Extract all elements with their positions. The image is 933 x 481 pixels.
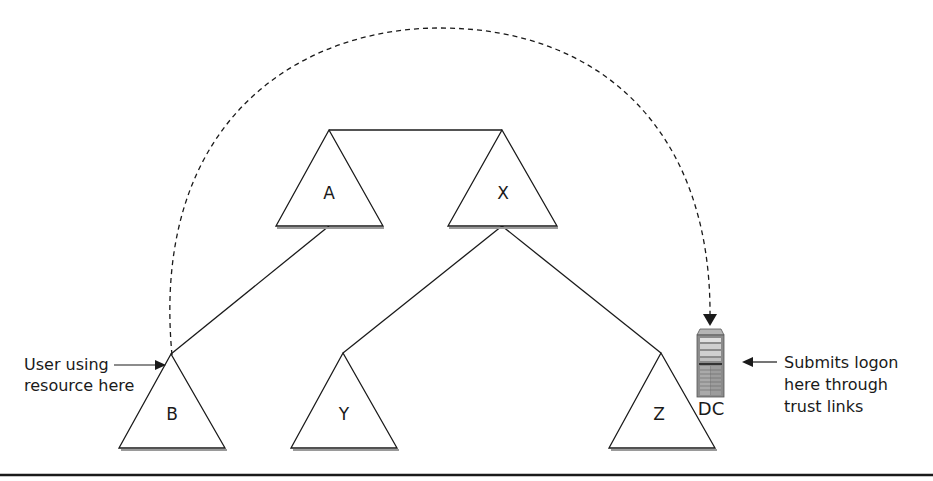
domain-label-x: X <box>497 183 509 203</box>
logon-note-line2: here through <box>784 375 888 394</box>
link-x-z <box>502 226 661 353</box>
logon-arrow-icon <box>742 357 753 367</box>
domain-tree-x: X <box>448 130 558 228</box>
dashed-logon-arc <box>170 28 710 355</box>
domain-label-z: Z <box>653 404 665 424</box>
domain-label-a: A <box>323 183 335 203</box>
link-a-b <box>171 226 329 354</box>
domain-tree-b: B <box>119 354 227 450</box>
user-note-line1: User using <box>24 355 109 374</box>
dc-label: DC <box>698 398 724 419</box>
user-note-line2: resource here <box>24 376 134 395</box>
trust-diagram: A X B Y Z <box>0 0 933 481</box>
logon-annotation: Submits logon here through trust links <box>742 353 899 416</box>
domain-tree-y: Y <box>291 353 399 450</box>
domain-label-b: B <box>166 404 178 424</box>
user-annotation: User using resource here <box>24 355 166 395</box>
domain-label-y: Y <box>338 404 350 424</box>
server-tower-icon: DC <box>697 329 724 419</box>
logon-note-line1: Submits logon <box>784 353 899 372</box>
logon-note-line3: trust links <box>784 397 863 416</box>
domain-tree-a: A <box>276 130 384 228</box>
link-x-y <box>343 226 502 353</box>
dc-arrowhead-icon <box>703 314 717 326</box>
